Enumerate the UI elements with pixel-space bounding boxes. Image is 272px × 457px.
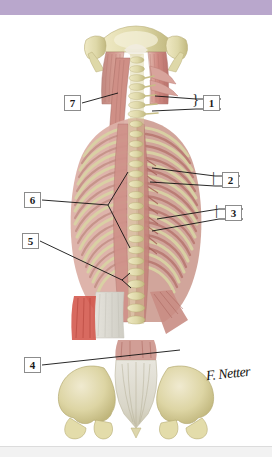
label-box-4[interactable]: 4 <box>24 357 41 373</box>
label-box-5[interactable]: 5 <box>22 233 39 249</box>
label-box-1[interactable]: 1 <box>203 95 220 111</box>
spinous-processes <box>127 118 145 324</box>
label-box-3[interactable]: 3 <box>225 205 242 221</box>
thoracolumbar-aponeurosis <box>71 292 124 340</box>
label-box-6[interactable]: 6 <box>24 192 41 208</box>
label-box-7[interactable]: 7 <box>64 95 81 111</box>
brace-2: | <box>212 170 215 185</box>
pelvis <box>58 340 213 439</box>
brace-3: | <box>215 203 218 218</box>
brace-1: } <box>192 92 199 107</box>
label-box-2[interactable]: 2 <box>222 172 239 188</box>
